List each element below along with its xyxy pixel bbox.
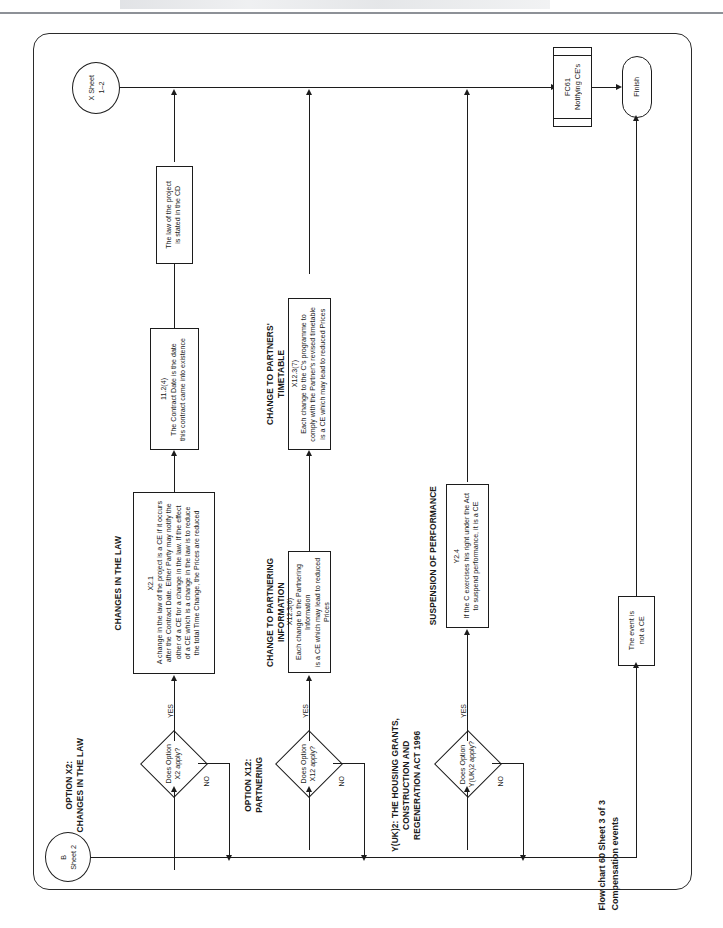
x2-entry-line [174,848,175,870]
x2-entry-line2 [174,792,175,850]
yuk2-yes-line [467,633,468,741]
terminator-finish-label: Finish [632,77,642,97]
x21-to-contract-date-arrow [171,450,177,456]
decision-does-option-yuk2-apply[interactable]: Does Option Y(UK)2 apply? [444,740,492,788]
yuk2-yes-edge-label: YES [457,698,471,724]
feeder-timetable-arrow [306,89,312,95]
yuk2-entry-arrow [464,786,470,792]
decision-yuk2-label-wrap: Does Option Y(UK)2 apply? [444,740,492,788]
feeder-law-cd-line [174,92,175,162]
process-event-not-a-ce[interactable]: The event is not a CE [618,596,655,666]
law-cd-from-contract-date-line [174,264,175,328]
x2-yes-edge-label: YES [164,698,178,724]
yuk2-no-line-h [492,763,524,764]
x1236-to-x1237-line [309,455,310,551]
page-header-rule [0,12,723,14]
process-y2-4[interactable]: Y2.4 If the C exercises his right under … [446,484,489,628]
process-law-stated-in-cd[interactable]: The law of the project is stated in the … [156,166,193,264]
x2-no-edge-label: NO [200,768,214,794]
process-x12-3-6-text: Each change to the Partnering Informatio… [295,552,332,672]
decision-does-option-x2-apply[interactable]: Does Option X2 apply? [150,740,198,788]
page-header-ghost-text [120,0,550,9]
process-x12-3-6[interactable]: X12.3(6) Each change to the Partnering I… [288,551,331,673]
caption-text: Flow chart 60 Sheet 3 of 3 Compensation … [596,800,622,911]
group-heading-change-to-partnering-information: CHANGE TO PARTNERING INFORMATION [266,551,286,673]
process-y2-4-text: If the C exercises his right under the A… [463,493,482,618]
group-heading-changes-in-the-law: CHANGES IN THE LAW [108,492,130,674]
process-contract-date[interactable]: 11.2(4) The Contract Date is the date th… [150,328,199,450]
feeder-timetable-line [309,92,310,274]
section-heading-option-x12: OPTION X12: PARTNERING [240,700,268,870]
x2-no-line-h [198,763,230,764]
section-heading-option-yuk2: Y(UK)2: THE HOUSING GRANTS, CONSTRUCTION… [390,700,424,870]
process-law-stated-in-cd-label: The law of the project is stated in the … [165,181,184,249]
connector-b-sheet-2[interactable]: B Sheet 2 [45,832,91,882]
process-x12-3-7-ref: X12.3(7) [291,360,300,387]
yuk2-no-line-v [523,763,524,857]
group-heading-suspension-of-performance: SUSPENSION OF PERFORMANCE [424,484,444,628]
chart-frame [33,33,692,890]
x12-no-line-v [364,763,365,857]
process-contract-date-text: The Contract Date is the date this contr… [170,338,189,441]
connector-x-sheet-1-2-label: X Sheet 1–2 [87,75,106,101]
yuk2-entry-line [467,792,468,850]
process-event-not-a-ce-label: The event is not a CE [627,611,646,650]
caption-line-1: Flow chart 60 Sheet 3 of 3 [597,800,607,911]
yuk2-yes-arrow [464,629,470,635]
feeder-law-cd-arrow [171,89,177,95]
process-x2-1-ref: X2.1 [147,576,156,591]
caption: Flow chart 60 Sheet 3 of 3 Compensation … [596,790,640,920]
x12-no-edge-label: NO [335,768,349,794]
process-x12-3-7[interactable]: X12.3(7) Each change to the C's programm… [288,298,331,450]
fc61-to-finish-line [592,87,619,88]
x2-yes-arrow [171,675,177,681]
group-heading-change-to-partners-timetable: CHANGE TO PARTNERS' TIMETABLE [266,298,286,450]
process-x2-1[interactable]: X2.1 A change in the law of the project … [133,492,215,674]
decision-does-option-x12-apply[interactable]: Does Option X12 apply? [285,740,333,788]
feeder-suspension-line [467,92,468,482]
terminator-finish[interactable]: Finish [622,56,652,118]
bottom-rail-to-not-a-ce-arrow [633,662,639,668]
process-y2-4-ref: Y2.4 [453,549,462,564]
x12-entry-arrow [306,786,312,792]
not-a-ce-to-finish-arrow [633,115,639,121]
process-x12-3-7-text: Each change to the C's programme to comp… [300,307,328,442]
process-contract-date-ref: 11.2(4) [160,378,169,400]
x12-yes-arrow [306,675,312,681]
x12-yes-edge-label: YES [299,698,313,724]
decision-x12-label-wrap: Does Option X12 apply? [285,740,333,788]
x21-to-contract-date-line [174,455,175,493]
x1236-to-x1237-arrow [306,450,312,456]
not-a-ce-to-finish-line [636,118,637,596]
connector-x-sheet-1-2[interactable]: X Sheet 1–2 [72,62,120,114]
predefined-process-fc61-label: FC61 Notifying CE's [554,57,591,117]
decision-x2-label-wrap: Does Option X2 apply? [150,740,198,788]
predefined-process-fc61[interactable]: FC61 Notifying CE's [553,47,592,127]
bottom-rail [91,857,637,858]
x12-entry-line [309,792,310,850]
yuk2-no-edge-label: NO [494,768,508,794]
x2-no-line-v [229,763,230,857]
x12-no-line-h [333,763,365,764]
connector-b-sheet-2-label: B Sheet 2 [59,845,78,870]
caption-line-2: Compensation events [610,817,620,911]
process-x2-1-text: A change in the law of the project is a … [156,501,203,664]
feeder-suspension-arrow [464,89,470,95]
spine-main-line [119,87,556,88]
